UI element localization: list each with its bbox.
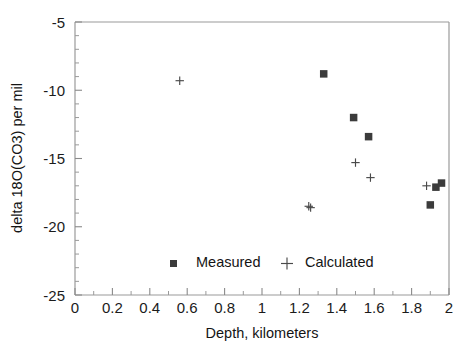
y-tick-label: -5 xyxy=(52,14,65,31)
scatter-plot-figure: 00.20.40.60.811.21.41.61.82 -5-10-15-20-… xyxy=(0,0,472,354)
legend-label-calculated: Calculated xyxy=(305,254,374,270)
data-point-square xyxy=(365,133,373,141)
x-axis-label: Depth, kilometers xyxy=(206,325,319,341)
x-tick-label: 1.6 xyxy=(364,299,385,316)
y-tick-label: -20 xyxy=(43,218,65,235)
data-point-square xyxy=(320,70,328,78)
x-tick-label: 0.8 xyxy=(214,299,235,316)
y-tick-label: -15 xyxy=(43,150,65,167)
y-axis-label: delta 18O(CO3) per mil xyxy=(9,83,25,233)
y-tick-label: -25 xyxy=(43,287,65,304)
legend-square-marker-icon xyxy=(170,260,177,267)
x-tick-label: 0.6 xyxy=(177,299,198,316)
x-tick-label: 1.8 xyxy=(401,299,422,316)
y-tick-label: -10 xyxy=(43,82,65,99)
x-tick-label: 0.2 xyxy=(102,299,123,316)
x-tick-label: 1.2 xyxy=(289,299,310,316)
plot-canvas: 00.20.40.60.811.21.41.61.82 -5-10-15-20-… xyxy=(0,0,472,354)
x-tick-label: 1.4 xyxy=(326,299,347,316)
x-tick-label: 0.4 xyxy=(139,299,160,316)
legend-label-measured: Measured xyxy=(196,254,260,270)
x-tick-label: 1 xyxy=(258,299,266,316)
data-point-square xyxy=(350,114,358,122)
data-point-square xyxy=(427,201,435,209)
data-point-square xyxy=(438,179,446,187)
x-tick-label: 0 xyxy=(71,299,79,316)
x-tick-label: 2 xyxy=(445,299,453,316)
